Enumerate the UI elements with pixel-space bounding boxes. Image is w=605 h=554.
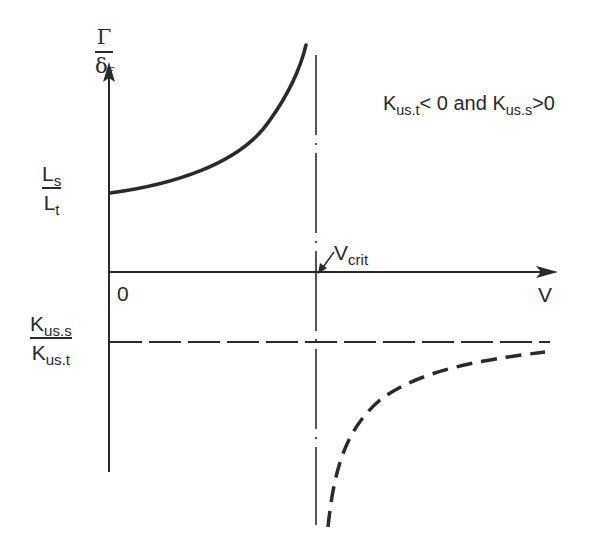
asymptote-num-main: K (30, 312, 44, 335)
intercept-denominator: Lt (44, 191, 60, 214)
fraction-bar (30, 337, 72, 339)
vcrit-sub: crit (348, 251, 368, 268)
vcrit-main: V (334, 241, 348, 264)
horizontal-asymptote-label: Kus.s Kus.t (30, 312, 72, 364)
cond-k2-sub: us.s (506, 102, 532, 118)
condition-label: Kus.t< 0 and Kus.s>0 (383, 93, 555, 113)
delta-subscript: f (108, 64, 114, 82)
y-axis-label: Γ δf (95, 26, 113, 78)
intercept-num-main: L (42, 162, 54, 185)
intercept-numerator: Ls (42, 162, 61, 185)
y-axis-label-numerator: Γ (97, 26, 112, 49)
unstable-branch-curve (328, 352, 545, 527)
stable-branch-curve (110, 45, 306, 193)
origin-label: 0 (117, 283, 129, 304)
asymptote-denominator: Kus.t (32, 341, 70, 364)
intercept-den-main: L (44, 191, 56, 214)
cond-k2-main: K (492, 92, 505, 114)
cond-k1-sub: us.t (396, 102, 419, 118)
cond-op1: < 0 and (420, 92, 493, 114)
cond-k1-main: K (383, 92, 396, 114)
diagram-canvas (0, 0, 605, 554)
x-axis-label: V (538, 284, 552, 305)
intercept-den-sub: t (55, 201, 59, 218)
asymptote-den-sub: us.t (46, 351, 70, 368)
y-axis-label-denominator: δf (95, 55, 113, 78)
delta-symbol: δ (95, 54, 108, 78)
asymptote-numerator: Kus.s (30, 312, 72, 335)
cond-op2: >0 (532, 92, 555, 114)
asymptote-den-main: K (32, 341, 46, 364)
intercept-label: Ls Lt (42, 162, 61, 214)
fraction-bar (42, 187, 61, 189)
fraction-bar (95, 51, 113, 53)
vcrit-label: Vcrit (334, 242, 368, 263)
